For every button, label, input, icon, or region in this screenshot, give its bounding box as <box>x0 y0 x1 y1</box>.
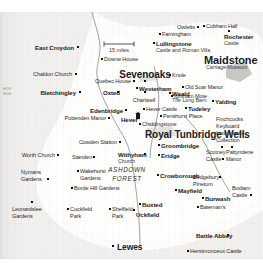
place-marker[interactable] <box>222 158 224 160</box>
place-label[interactable]: Eridge <box>161 153 180 160</box>
place-label[interactable]: Chartwell <box>133 98 155 104</box>
place-marker[interactable] <box>125 109 127 111</box>
place-label[interactable]: Finchcocks <box>216 117 243 123</box>
place-label[interactable]: Lewes <box>117 243 143 252</box>
place-marker[interactable] <box>133 209 135 211</box>
place-marker[interactable] <box>175 189 177 191</box>
place-label[interactable]: East Croydon <box>35 45 74 52</box>
place-label[interactable]: Castle <box>206 157 221 163</box>
place-label[interactable]: Gardens <box>12 214 33 220</box>
place-label[interactable]: Cobham Hall <box>206 24 237 30</box>
place-marker[interactable] <box>67 208 69 210</box>
place-label[interactable]: Park <box>70 214 81 220</box>
place-label[interactable]: Nymans <box>21 170 41 176</box>
place-label[interactable]: Castle <box>232 193 247 199</box>
place-label[interactable]: Standen <box>72 155 92 161</box>
place-label[interactable]: Pattyndene <box>226 150 253 156</box>
place-label[interactable]: Keyboard <box>216 124 239 130</box>
place-label[interactable]: Park <box>112 214 123 220</box>
place-marker[interactable] <box>144 91 146 93</box>
place-label[interactable]: Farningham <box>162 32 191 38</box>
place-marker[interactable] <box>221 146 223 148</box>
place-marker[interactable] <box>136 87 138 89</box>
place-marker[interactable] <box>202 197 204 199</box>
place-label[interactable]: Burwash <box>205 196 230 203</box>
place-marker[interactable] <box>57 154 59 156</box>
place-label[interactable]: Yalding <box>215 99 236 106</box>
place-marker[interactable] <box>93 156 95 158</box>
place-label[interactable]: Pinetum <box>193 182 213 188</box>
place-label[interactable]: Knole <box>172 73 186 79</box>
place-label[interactable]: Herstmonceux Castle <box>190 249 242 255</box>
place-label[interactable]: FOREST <box>112 176 142 183</box>
place-label[interactable]: Buxted <box>142 202 162 209</box>
place-label[interactable]: Puttenden Manor <box>65 116 106 122</box>
place-marker[interactable] <box>133 80 135 82</box>
place-marker[interactable] <box>185 107 187 109</box>
place-label[interactable]: Borde Hill Gardens <box>74 186 119 192</box>
place-label[interactable]: Sheffield <box>112 207 133 213</box>
place-label[interactable]: Castle and Roman Villa <box>156 48 210 54</box>
place-label[interactable]: Bodiam <box>232 186 250 192</box>
place-marker[interactable] <box>169 74 171 76</box>
place-marker[interactable] <box>75 73 77 75</box>
place-label[interactable]: Church <box>118 159 135 165</box>
place-marker[interactable] <box>197 206 199 208</box>
place-marker[interactable] <box>112 245 114 247</box>
place-label[interactable]: Oxted <box>103 90 120 97</box>
place-label[interactable]: Hever <box>121 117 138 124</box>
place-marker[interactable] <box>182 86 184 88</box>
place-label[interactable]: Chiddingstone <box>142 122 176 128</box>
place-label[interactable]: Battle Abbey <box>196 233 232 240</box>
place-label[interactable]: Worth Church <box>22 153 55 159</box>
place-label[interactable]: Castle <box>224 41 239 47</box>
place-marker[interactable] <box>77 46 79 48</box>
place-marker[interactable] <box>108 117 110 119</box>
place-label[interactable]: Bletchingley <box>40 90 76 97</box>
place-label[interactable]: Hever Castle <box>146 107 177 113</box>
place-label[interactable]: Wakehurst <box>80 169 106 175</box>
place-label[interactable]: Cowden Station <box>79 140 117 146</box>
place-marker[interactable] <box>143 108 145 110</box>
place-label[interactable]: Mayfield <box>178 188 202 195</box>
place-label[interactable]: Quebec House <box>95 79 131 85</box>
place-label[interactable]: Leonardslee <box>12 207 42 213</box>
place-marker[interactable] <box>160 115 162 117</box>
place-label[interactable]: ASHDOWN <box>108 167 146 174</box>
place-label[interactable]: Bedgebury <box>193 175 219 181</box>
place-marker[interactable] <box>231 146 233 148</box>
place-marker[interactable] <box>158 154 160 156</box>
place-marker[interactable] <box>31 201 33 203</box>
place-label[interactable]: Gardens <box>21 177 42 183</box>
place-marker[interactable] <box>212 100 214 102</box>
place-label[interactable]: Carriage Museum <box>206 65 247 71</box>
place-marker[interactable] <box>158 144 160 146</box>
place-label[interactable]: Owletts <box>177 25 195 31</box>
place-marker[interactable] <box>47 178 49 180</box>
place-label[interactable]: Scotney <box>206 150 226 156</box>
place-label[interactable]: Downe House <box>104 57 138 63</box>
place-marker[interactable] <box>159 33 161 35</box>
place-marker[interactable] <box>250 194 252 196</box>
place-marker[interactable] <box>101 58 103 60</box>
place-marker[interactable] <box>71 187 73 189</box>
place-marker[interactable] <box>157 174 159 176</box>
place-label[interactable]: The Long Barn <box>172 98 206 104</box>
place-marker[interactable] <box>139 203 141 205</box>
place-label[interactable]: Chaldon Church <box>33 72 72 78</box>
place-marker[interactable] <box>219 176 221 178</box>
place-marker[interactable] <box>109 208 111 210</box>
place-label[interactable]: Tudeley <box>188 106 210 113</box>
place-label[interactable]: Bateman's <box>200 205 225 211</box>
place-label[interactable]: Cuckfield <box>70 207 92 213</box>
place-label[interactable]: Manor <box>226 157 241 163</box>
place-marker[interactable] <box>119 141 121 143</box>
place-marker[interactable] <box>197 26 199 28</box>
place-marker[interactable] <box>187 250 189 252</box>
place-marker[interactable] <box>77 170 79 172</box>
place-marker[interactable] <box>139 123 141 125</box>
place-marker[interactable] <box>79 91 81 93</box>
place-label[interactable]: Groombridge <box>161 143 199 150</box>
place-label[interactable]: Gardens <box>80 176 101 182</box>
place-label[interactable]: Instruments <box>216 131 244 137</box>
